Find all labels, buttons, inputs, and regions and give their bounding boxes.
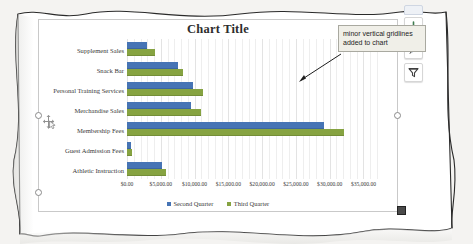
scanned-page: Chart Title Supplement Sales Snack Bar P… (0, 0, 473, 244)
category-label: Supplement Sales (77, 47, 124, 54)
minor-gridline (357, 39, 358, 179)
bar-third-quarter[interactable] (127, 109, 201, 116)
value-axis-tick-label: $5,000.00 (150, 181, 172, 187)
minor-gridline (222, 39, 223, 179)
move-cursor-icon (43, 115, 56, 129)
chart-filters-button[interactable] (404, 63, 423, 82)
value-axis-tick-label: $25,000.00 (283, 181, 308, 187)
bar-third-quarter[interactable] (127, 69, 183, 76)
value-axis-tick-label: $35,000.00 (351, 181, 376, 187)
minor-gridline (201, 39, 202, 179)
bar-third-quarter[interactable] (127, 129, 344, 136)
category-label: Guest Admission Fees (65, 147, 124, 154)
legend-item[interactable]: Third Quarter (227, 200, 269, 207)
legend-label: Third Quarter (234, 200, 269, 207)
minor-gridline (370, 39, 371, 179)
resize-handle-bottom-right[interactable] (397, 206, 406, 215)
category-label: Snack Bar (97, 67, 124, 74)
chart-quick-tab[interactable] (404, 5, 423, 15)
value-axis-tick-label: $20,000.00 (250, 181, 275, 187)
minor-gridline (282, 39, 283, 179)
legend-label: Second Quarter (173, 200, 213, 207)
minor-gridline (215, 39, 216, 179)
minor-gridline (249, 39, 250, 179)
plot-area-wrapper: Supplement Sales Snack Bar Personal Trai… (38, 39, 398, 189)
legend-item[interactable]: Second Quarter (167, 200, 213, 207)
minor-gridline (235, 39, 236, 179)
bar-third-quarter[interactable] (127, 49, 155, 56)
value-axis-tick-label: $15,000.00 (216, 181, 241, 187)
funnel-icon (408, 67, 419, 78)
minor-gridline (377, 39, 378, 179)
callout-box: minor vertical gridlines added to chart (338, 25, 426, 52)
minor-gridline (350, 39, 351, 179)
minor-gridline (269, 39, 270, 179)
minor-gridline (289, 39, 290, 179)
minor-gridline (242, 39, 243, 179)
minor-gridline (276, 39, 277, 179)
category-label: Merchandise Sales (74, 107, 124, 114)
bar-third-quarter[interactable] (127, 169, 166, 176)
value-axis-tick-label: $10,000.00 (182, 181, 207, 187)
callout-text: minor vertical gridlines added to chart (343, 29, 421, 48)
major-gridline (363, 39, 364, 179)
minor-gridline (208, 39, 209, 179)
value-axis-tick-label: $30,000.00 (317, 181, 342, 187)
legend-swatch (227, 202, 231, 206)
major-gridline (262, 39, 263, 179)
category-label: Membership Fees (77, 127, 124, 134)
legend-swatch (167, 202, 171, 206)
bar-third-quarter[interactable] (127, 149, 132, 156)
minor-gridline (343, 39, 344, 179)
minor-gridline (255, 39, 256, 179)
category-label: Athletic Instruction (73, 167, 124, 174)
chart-legend[interactable]: Second QuarterThird Quarter (38, 192, 398, 210)
category-label: Personal Training Services (53, 87, 124, 94)
bar-third-quarter[interactable] (127, 89, 203, 96)
callout-arrow (294, 53, 342, 83)
major-gridline (228, 39, 229, 179)
value-axis-tick-label: $0.00 (121, 181, 134, 187)
category-axis-labels: Supplement Sales Snack Bar Personal Trai… (38, 39, 126, 179)
